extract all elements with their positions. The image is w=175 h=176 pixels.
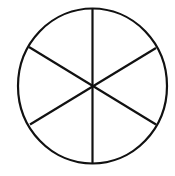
sector-circle-diagram	[0, 0, 175, 176]
